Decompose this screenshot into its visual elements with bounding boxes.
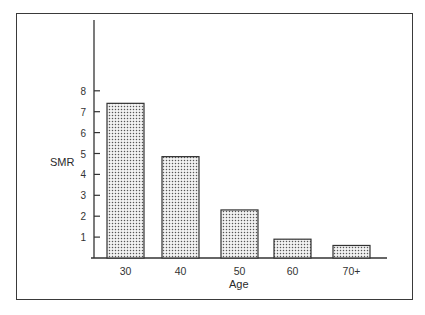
y-axis-label: SMR xyxy=(50,156,74,168)
x-tick-label: 30 xyxy=(120,265,132,277)
y-tick-label: 2 xyxy=(80,211,86,222)
bar xyxy=(274,239,311,258)
x-tick-label: 70+ xyxy=(343,265,361,277)
y-tick-label: 1 xyxy=(80,232,86,243)
y-tick-label: 6 xyxy=(80,128,86,139)
x-tick-label: 60 xyxy=(287,265,299,277)
y-axis xyxy=(94,20,100,258)
y-tick-label: 4 xyxy=(80,169,86,180)
x-tick-label: 40 xyxy=(175,265,187,277)
bar xyxy=(107,103,144,258)
y-tick-label: 5 xyxy=(80,149,86,160)
y-tick-label: 3 xyxy=(80,190,86,201)
bar xyxy=(162,157,199,258)
y-tick-label: 7 xyxy=(80,107,86,118)
x-tick-label: 50 xyxy=(234,265,246,277)
bars xyxy=(107,103,370,258)
bar xyxy=(333,245,370,258)
x-axis-label: Age xyxy=(229,278,249,290)
bar xyxy=(221,210,258,258)
y-tick-label: 8 xyxy=(80,86,86,97)
